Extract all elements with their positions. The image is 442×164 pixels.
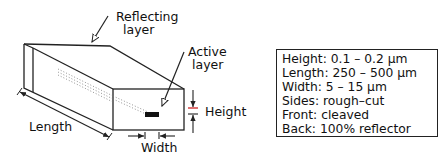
- active-layer-bar: [145, 112, 159, 117]
- waveguide-dots: [58, 69, 148, 115]
- active-layer-arrow: [162, 52, 184, 106]
- spec-front: Front: cleaved: [282, 108, 437, 122]
- height-dimension: [188, 90, 198, 133]
- width-dimension: [128, 132, 175, 139]
- laser-chip-diagram: Reflecting layer Active layer Height Wid…: [0, 0, 270, 164]
- spec-sides: Sides: rough–cut: [282, 94, 437, 108]
- spec-width: Width: 5 – 15 μm: [282, 80, 437, 94]
- reflecting-layer-arrow: [92, 16, 108, 42]
- chip-body: [24, 44, 184, 130]
- width-label: Width: [141, 140, 177, 155]
- chip-top-edge: [24, 44, 184, 89]
- spec-back: Back: 100% reflector: [282, 122, 437, 136]
- active-layer-label-2: layer: [192, 57, 224, 72]
- chip-front-face: [113, 89, 184, 130]
- length-label: Length: [29, 119, 72, 134]
- chip-top-front-edge: [33, 48, 113, 89]
- specifications-box: Height: 0.1 – 0.2 μm Length: 250 – 500 μ…: [276, 49, 438, 137]
- spec-length: Length: 250 – 500 μm: [282, 66, 437, 80]
- height-label: Height: [205, 104, 246, 119]
- reflecting-layer-label-2: layer: [123, 22, 155, 37]
- spec-height: Height: 0.1 – 0.2 μm: [282, 52, 437, 66]
